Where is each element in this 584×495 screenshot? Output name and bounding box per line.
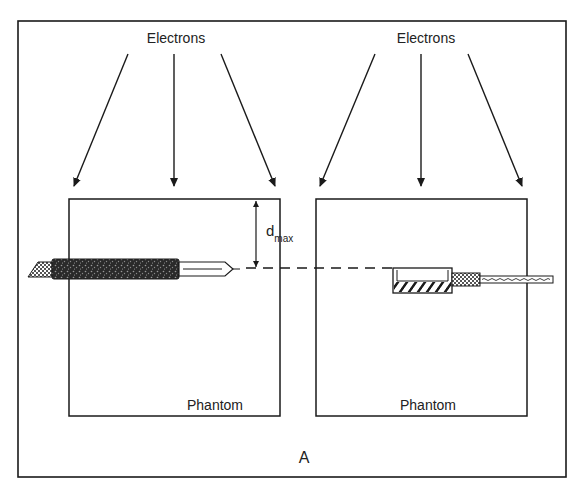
right-arrow-3 — [468, 54, 522, 186]
right-panel: Electrons — [316, 30, 553, 416]
left-phantom-label: Phantom — [187, 397, 243, 413]
left-arrow-3 — [221, 54, 275, 186]
left-phantom-box — [69, 199, 280, 416]
outer-frame — [18, 21, 566, 477]
right-phantom-label: Phantom — [400, 397, 456, 413]
diagram-canvas: Electrons dmax Electrons — [0, 0, 584, 495]
right-arrow-1 — [320, 54, 375, 186]
parallel-plate-chamber — [393, 268, 553, 293]
left-electrons-label: Electrons — [147, 30, 205, 46]
left-panel: Electrons dmax — [28, 30, 293, 416]
panel-label: A — [299, 449, 310, 466]
cylindrical-chamber — [28, 259, 240, 279]
right-electrons-label: Electrons — [397, 30, 455, 46]
right-phantom-box — [316, 199, 527, 416]
left-arrow-1 — [74, 54, 128, 186]
